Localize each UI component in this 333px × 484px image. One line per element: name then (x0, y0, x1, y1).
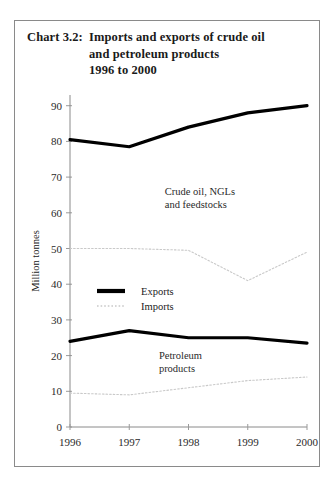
series-line (70, 331, 307, 343)
y-tick-label: 60 (51, 207, 63, 219)
y-axis-ticks (66, 106, 72, 427)
y-tick-label: 80 (51, 135, 63, 147)
annotation-label: products (159, 363, 195, 374)
y-tick-label: 50 (51, 243, 63, 255)
chart-svg: 0102030405060708090 19961997199819992000… (15, 21, 321, 468)
legend-label: Imports (141, 301, 174, 312)
y-tick-label: 40 (51, 278, 63, 290)
y-tick-label: 0 (57, 421, 63, 433)
series-line (70, 249, 307, 281)
series-line (70, 377, 307, 395)
chart-plot-area: 0102030405060708090 19961997199819992000… (15, 21, 321, 468)
y-axis-tick-labels: 0102030405060708090 (51, 100, 63, 433)
y-tick-label: 90 (51, 100, 63, 112)
legend-label: Exports (141, 286, 174, 297)
chart-annotations: Crude oil, NGLsand feedstocksPetroleumpr… (159, 186, 235, 374)
chart-frame: Chart 3.2:Imports and exports of crude o… (14, 20, 320, 467)
series-line (70, 106, 307, 147)
y-tick-label: 10 (51, 385, 63, 397)
x-tick-label: 1998 (178, 436, 201, 448)
x-tick-label: 1999 (237, 436, 260, 448)
x-axis-tick-labels: 19961997199819992000 (59, 436, 319, 448)
chart-legend: ExportsImports (97, 286, 174, 312)
x-tick-label: 2000 (296, 436, 319, 448)
x-tick-label: 1997 (118, 436, 141, 448)
annotation-label: Crude oil, NGLs (165, 186, 235, 197)
y-tick-label: 70 (51, 171, 63, 183)
annotation-label: Petroleum (159, 350, 202, 361)
y-tick-label: 20 (51, 350, 63, 362)
y-axis-label: Million tonnes (30, 230, 41, 292)
x-tick-label: 1996 (59, 436, 82, 448)
annotation-label: and feedstocks (165, 199, 227, 210)
y-tick-label: 30 (51, 314, 63, 326)
